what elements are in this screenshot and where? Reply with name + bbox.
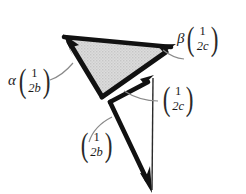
paren-left: (	[19, 67, 27, 95]
bottom-entry-bottom: 2b	[90, 145, 103, 160]
label-alpha-vector: α ( 1 2b )	[8, 66, 52, 96]
alpha-entry-bottom: 2b	[28, 81, 41, 96]
inner-c-arrowhead	[139, 75, 154, 89]
alpha-leader-arc	[50, 63, 73, 80]
alpha-entry-top: 1	[31, 66, 37, 81]
paren-right: )	[105, 131, 113, 159]
paren-right: )	[210, 25, 218, 53]
middle-entry-top: 1	[175, 84, 181, 99]
bottom-entry-top: 1	[93, 130, 99, 145]
beta-vector-entries: 1 2c	[196, 24, 210, 54]
beta-column-vector: ( 1 2c )	[185, 24, 219, 54]
vector-diagram-figure: α ( 1 2b ) β ( 1 2c ) ( 1 2c	[0, 0, 246, 194]
middle-entry-bottom: 2c	[172, 99, 184, 114]
label-beta-vector: β ( 1 2c )	[177, 24, 220, 54]
vertical-c-edge	[152, 78, 153, 190]
label-middle-vector: ( 1 2c )	[160, 84, 195, 114]
bottom-vector-entries: 1 2b	[89, 130, 104, 160]
middle-vector-entries: 1 2c	[171, 84, 185, 114]
alpha-column-vector: ( 1 2b )	[17, 66, 52, 96]
paren-left: (	[81, 131, 89, 159]
paren-left: (	[187, 25, 195, 53]
inner-b-vector-shaft	[110, 102, 147, 180]
paren-right: )	[186, 85, 194, 113]
alpha-coefficient: α	[8, 73, 17, 88]
bottom-column-vector: ( 1 2b )	[79, 130, 114, 160]
paren-right: )	[43, 67, 51, 95]
beta-coefficient: β	[177, 31, 185, 46]
label-bottom-vector: ( 1 2b )	[78, 130, 114, 160]
beta-entry-bottom: 2c	[197, 39, 209, 54]
beta-entry-top: 1	[200, 24, 206, 39]
middle-column-vector: ( 1 2c )	[161, 84, 195, 114]
alpha-vector-entries: 1 2b	[27, 66, 42, 96]
paren-left: (	[163, 85, 171, 113]
